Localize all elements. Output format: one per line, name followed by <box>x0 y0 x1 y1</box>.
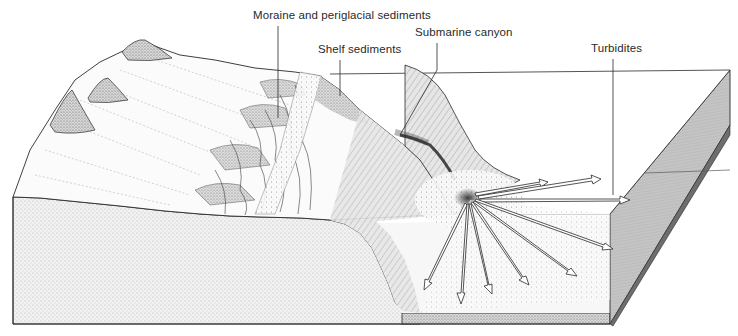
label-moraine-periglacial-sediments: Moraine and periglacial sediments <box>253 9 431 21</box>
label-turbidites: Turbidites <box>591 42 642 54</box>
label-shelf-sediments: Shelf sediments <box>318 43 401 55</box>
block-diagram: Moraine and periglacial sediments Shelf … <box>0 0 738 336</box>
label-submarine-canyon: Submarine canyon <box>415 26 513 38</box>
